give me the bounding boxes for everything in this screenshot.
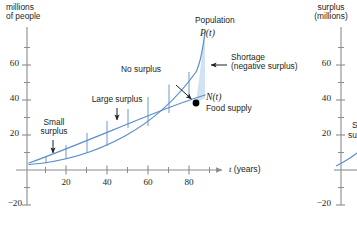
y-axis-title: millions of people <box>6 3 40 22</box>
x-axis-title: t (years) <box>229 165 261 175</box>
y-tick-label-neg20: −20 <box>0 198 22 208</box>
side-y-tick-label-60: 60 <box>312 58 331 68</box>
side-y-tick-label-20: 20 <box>312 128 331 138</box>
x-tick-label-20: 20 <box>55 177 77 187</box>
y-tick-label-40: 40 <box>0 93 19 103</box>
side-clipped-text-1: S <box>352 121 357 130</box>
annotation-population-function: P(t) <box>200 28 215 39</box>
annotation-food-supply: Food supply <box>206 104 252 113</box>
annotation-shortage: Shortage (negative surplus) <box>231 53 298 72</box>
shortage-line2: (negative surplus) <box>231 62 298 71</box>
annotation-population: Population <box>195 16 235 25</box>
side-y-axis-title: surplus (millions) <box>306 3 356 22</box>
side-chart-axes <box>334 27 357 205</box>
annotation-no-surplus: No surplus <box>121 65 161 74</box>
annotation-food-function: N(t) <box>206 92 221 103</box>
annotation-large-surplus: Large surplus <box>77 95 157 104</box>
y-tick-label-20: 20 <box>0 128 19 138</box>
x-tick-label-80: 80 <box>178 177 200 187</box>
y-tick-label-60: 60 <box>0 58 19 68</box>
annotation-small-surplus: Small surplus <box>31 118 77 137</box>
side-curve <box>336 153 357 166</box>
x-tick-label-40: 40 <box>96 177 118 187</box>
intersection-dot <box>193 100 200 107</box>
figure-container: millions of people 60 40 20 −20 20 40 60… <box>0 0 357 233</box>
x-axis-title-unit: (years) <box>234 164 261 174</box>
x-tick-label-60: 60 <box>137 177 159 187</box>
side-y-axis-title-line2: (millions) <box>306 12 356 21</box>
small-surplus-line2: surplus <box>31 127 77 136</box>
side-y-tick-label-40: 40 <box>312 93 331 103</box>
side-y-tick-label-neg20: −20 <box>309 198 331 208</box>
x-axis-title-var: t <box>229 164 231 174</box>
y-axis-title-line2: of people <box>6 12 40 21</box>
side-clipped-text-2: su <box>348 131 357 140</box>
